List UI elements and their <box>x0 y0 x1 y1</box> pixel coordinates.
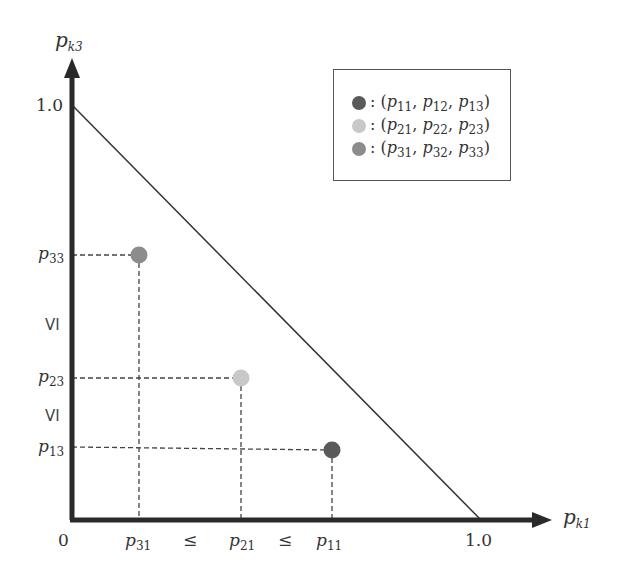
legend-item-p3: : (p31, p32, p33) <box>352 138 490 160</box>
legend: : (p11, p12, p13) : (p21, p22, p23) : (p… <box>333 69 511 181</box>
x-axis-arrow-icon <box>532 512 552 528</box>
y-tick-p13: p13 <box>38 436 64 459</box>
point-p2 <box>233 370 250 387</box>
y-leq-symbol: VI <box>45 316 60 334</box>
x-leq-symbol: ≤ <box>183 530 197 550</box>
y-tick-p33: p33 <box>38 243 64 266</box>
x-tick-p21: p21 <box>229 530 255 553</box>
dot-icon <box>352 119 366 133</box>
y-leq-symbol: VI <box>45 407 60 425</box>
y-max-tick: 1.0 <box>36 95 63 115</box>
simplex-diagram <box>0 0 634 573</box>
x-axis-label: pk1 <box>563 505 591 531</box>
y-tick-p23: p23 <box>38 366 64 389</box>
y-axis-arrow-icon <box>64 58 80 78</box>
y-axis-label: pk3 <box>55 28 83 54</box>
x-leq-symbol: ≤ <box>278 530 292 550</box>
legend-item-p1: : (p11, p12, p13) <box>352 92 490 114</box>
origin-label: 0 <box>58 530 69 550</box>
x-tick-p11: p11 <box>316 530 342 553</box>
x-max-tick: 1.0 <box>465 530 492 550</box>
legend-item-p2: : (p21, p22, p23) <box>352 115 490 137</box>
dot-icon <box>352 142 366 156</box>
dot-icon <box>352 96 366 110</box>
point-p1 <box>324 442 341 459</box>
x-tick-p31: p31 <box>125 530 151 553</box>
point-p3 <box>131 247 148 264</box>
dashed-guides <box>72 255 332 520</box>
